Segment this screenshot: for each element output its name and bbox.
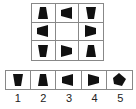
grid-cell-r2c1 (32, 23, 56, 42)
answer-label: 4 (82, 92, 108, 104)
trapezoid-down-icon (11, 73, 25, 87)
trapezoid-right-icon (87, 73, 101, 87)
trapezoid-down-icon (84, 6, 98, 20)
trapezoid-up-icon (36, 73, 50, 87)
answer-option-5[interactable] (107, 71, 132, 89)
grid-cell-r1c3 (79, 4, 103, 23)
grid-cell-r3c1 (32, 41, 56, 60)
trapezoid-rotated-diamond-icon (112, 73, 126, 87)
trapezoid-right-icon (84, 24, 98, 38)
answer-option-3[interactable] (56, 71, 81, 89)
answer-label: 1 (5, 92, 31, 104)
answer-option-2[interactable] (31, 71, 56, 89)
answer-options (5, 70, 133, 90)
trapezoid-left-icon (36, 24, 50, 38)
grid-cell-r3c3 (79, 41, 103, 60)
answer-label: 5 (107, 92, 133, 104)
answer-label: 3 (56, 92, 82, 104)
grid-cell-missing (56, 23, 80, 42)
grid-cell-r1c2 (56, 4, 80, 23)
answer-labels: 12345 (5, 92, 133, 104)
grid-cell-r2c3 (79, 23, 103, 42)
trapezoid-up-icon (84, 44, 98, 58)
trapezoid-left-icon (60, 6, 74, 20)
trapezoid-down-icon (36, 44, 50, 58)
answer-label: 2 (31, 92, 57, 104)
grid-cell-r1c1 (32, 4, 56, 23)
answer-option-1[interactable] (6, 71, 31, 89)
grid-cell-r3c2 (56, 41, 80, 60)
puzzle-grid (31, 3, 104, 61)
answer-option-4[interactable] (82, 71, 107, 89)
trapezoid-right-icon (60, 44, 74, 58)
trapezoid-up-icon (36, 6, 50, 20)
trapezoid-left-icon (61, 73, 75, 87)
